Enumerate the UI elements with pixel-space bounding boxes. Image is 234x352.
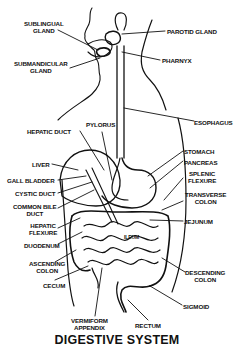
label-esophagus: ESOPHAGUS [194, 119, 233, 126]
label-submandibular-gland: SUBMANDICULAR GLAND [14, 60, 68, 74]
label-hepatic-duct: HEPATIC DUCT [27, 128, 71, 135]
label-line: SUBMANDICULAR [14, 60, 68, 67]
label-duodenum: DUODENUM [24, 242, 60, 249]
label-line: COMMON BILE [13, 203, 57, 210]
label-line: DESCENDING [185, 269, 225, 276]
label-parotid-gland: PAROTID GLAND [167, 28, 217, 35]
label-line: SUBLINGUAL [24, 20, 64, 27]
label-hepatic-flexure: HEPATIC FLEXURE [29, 222, 57, 236]
label-line: COLON [185, 198, 226, 205]
label-stomach: STOMACH [184, 148, 214, 155]
label-pharynx: PHARNYX [162, 57, 192, 64]
label-sublingual-gland: SUBLINGUAL GLAND [24, 20, 64, 34]
label-transverse-colon: TRANSVERSE COLON [185, 191, 226, 205]
label-line: FLEXURE [188, 177, 216, 184]
label-line: COLON [29, 267, 65, 274]
label-liver: LIVER [32, 161, 50, 168]
label-ascending-colon: ASCENDING COLON [29, 260, 65, 274]
label-pancreas: PANCREAS [184, 159, 217, 166]
label-jejunum: JEJUNUM [184, 218, 213, 225]
label-line: FLEXURE [29, 229, 57, 236]
label-line: HEPATIC [29, 222, 57, 229]
label-pylorus: PYLORUS [86, 121, 115, 128]
label-line: COLON [185, 276, 225, 283]
label-rectum: RECTUM [135, 322, 161, 329]
diagram-title: DIGESTIVE SYSTEM [0, 333, 234, 347]
label-line: VERMIFORM [71, 317, 108, 324]
label-line: GLAND [14, 67, 68, 74]
label-gall-bladder: GALL BLADDER [7, 177, 55, 184]
label-vermiform-appendix: VERMIFORM APPENDIX [71, 317, 108, 331]
label-line: DUCT [13, 210, 57, 217]
label-line: TRANSVERSE [185, 191, 226, 198]
label-cystic-duct: CYSTIC DUCT [15, 190, 56, 197]
label-cecum: CECUM [43, 282, 65, 289]
label-line: SPLENIC [188, 170, 216, 177]
label-line: APPENDIX [71, 324, 108, 331]
label-descending-colon: DESCENDING COLON [185, 269, 225, 283]
label-line: ASCENDING [29, 260, 65, 267]
label-ileum: ILEUM [124, 234, 139, 241]
label-splenic-flexure: SPLENIC FLEXURE [188, 170, 216, 184]
label-line: GLAND [24, 27, 64, 34]
label-sigmoid: SIGMOID [183, 303, 209, 310]
label-common-bile-duct: COMMON BILE DUCT [13, 203, 57, 217]
